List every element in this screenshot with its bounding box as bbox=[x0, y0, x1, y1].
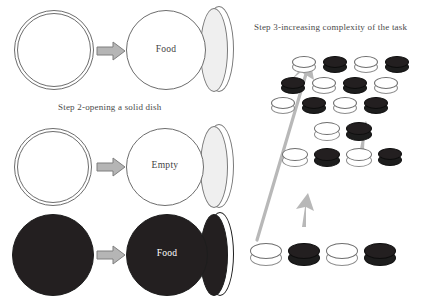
closed-dish-light-2[interactable] bbox=[14, 128, 92, 206]
disc-light[interactable] bbox=[326, 243, 358, 267]
step2-row-1: Food bbox=[0, 0, 244, 100]
left-panel: Food Step 2-opening a solid dish Empty bbox=[0, 0, 244, 296]
step2-row-3: Food bbox=[0, 208, 244, 296]
disc-light[interactable] bbox=[271, 97, 295, 115]
progress-arrow-lower bbox=[292, 192, 318, 228]
open-dish-label-2: Empty bbox=[126, 160, 204, 170]
open-dish-label-3: Food bbox=[126, 248, 208, 258]
disc-dark[interactable] bbox=[378, 148, 402, 167]
disc-dark[interactable] bbox=[385, 56, 409, 74]
disc-dark[interactable] bbox=[302, 97, 326, 115]
disc-light[interactable] bbox=[282, 148, 308, 168]
disc-dark[interactable] bbox=[288, 243, 320, 267]
disc-dark[interactable] bbox=[364, 97, 388, 115]
figure-root: Food Step 2-opening a solid dish Empty bbox=[0, 0, 437, 296]
disc-dark[interactable] bbox=[323, 56, 347, 74]
right-arrow-3 bbox=[96, 244, 126, 266]
open-dish-light-2[interactable]: Empty bbox=[126, 124, 234, 210]
right-panel: Step 3-increasing complexity of the task bbox=[244, 0, 437, 296]
disc-dark[interactable] bbox=[346, 122, 372, 142]
disc-light[interactable] bbox=[333, 97, 357, 115]
step3-title: Step 3-increasing complexity of the task bbox=[254, 22, 407, 32]
closed-dish-dark-3[interactable] bbox=[12, 214, 94, 296]
open-dish-light-1[interactable]: Food bbox=[126, 6, 234, 94]
disc-dark[interactable] bbox=[314, 148, 340, 168]
open-dish-label-1: Food bbox=[126, 44, 206, 54]
disc-light[interactable] bbox=[314, 122, 340, 142]
step2-caption: Step 2-opening a solid dish bbox=[58, 102, 161, 112]
disc-dark[interactable] bbox=[281, 77, 305, 95]
disc-dark[interactable] bbox=[343, 77, 367, 95]
disc-light[interactable] bbox=[354, 56, 378, 74]
step2-row-2: Empty bbox=[0, 120, 244, 208]
right-arrow-2 bbox=[96, 156, 126, 178]
dish-lid-2 bbox=[200, 126, 228, 208]
open-dish-dark-3[interactable]: Food bbox=[126, 210, 234, 296]
disc-light[interactable] bbox=[346, 148, 372, 168]
right-arrow-1 bbox=[96, 40, 126, 62]
disc-dark[interactable] bbox=[364, 243, 396, 267]
disc-light[interactable] bbox=[374, 77, 398, 95]
disc-light[interactable] bbox=[292, 56, 316, 74]
closed-dish-light-1[interactable] bbox=[14, 10, 94, 90]
disc-light[interactable] bbox=[250, 243, 282, 267]
disc-light[interactable] bbox=[312, 77, 336, 95]
